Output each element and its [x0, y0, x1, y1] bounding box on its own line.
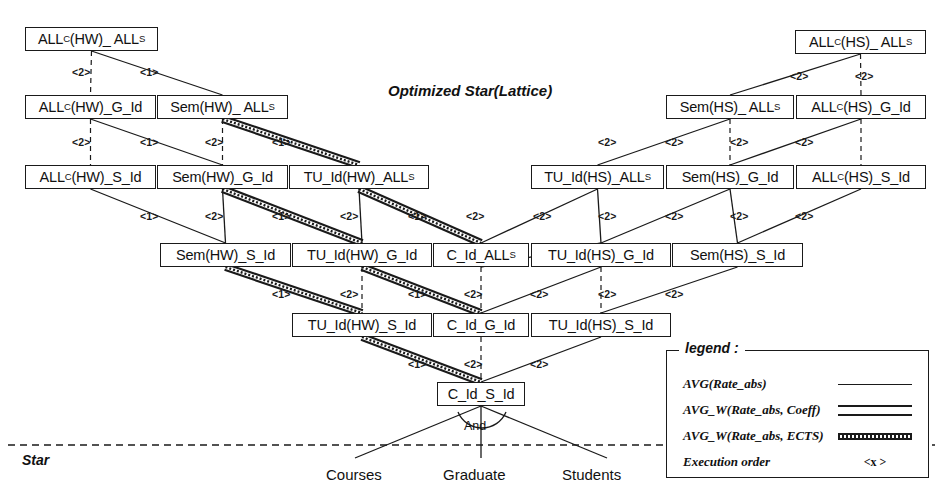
edge-order-label: <2> [205, 210, 224, 222]
star-dimension-label[interactable]: Courses [326, 466, 382, 483]
legend-row-sample [836, 433, 914, 440]
lattice-node[interactable]: TU_Id(HW)_ALLS [289, 165, 429, 189]
edge-order-label: <2> [598, 136, 617, 148]
edge-order-label: <1> [140, 210, 159, 222]
lattice-node[interactable]: TU_Id(HS)_G_Id [531, 243, 671, 267]
lattice-node[interactable]: C_Id_G_Id [433, 313, 529, 337]
legend-row: AVG_W(Rate_abs, Coeff) [667, 397, 928, 423]
lattice-node[interactable]: C_Id_ALLS [433, 243, 529, 267]
lattice-node[interactable]: Sem(HS)_G_Id [666, 165, 794, 189]
lattice-node[interactable]: Sem(HS)_ ALLS [666, 95, 794, 119]
edge-order-label: <1> [272, 288, 291, 300]
lattice-node[interactable]: Sem(HW)_S_Id [160, 243, 291, 267]
hatched-line-icon [838, 433, 912, 440]
edge-thin [359, 189, 362, 243]
legend-row-label: Execution order [683, 454, 836, 470]
legend-box: legend : AVG(Rate_abs)AVG_W(Rate_abs, Co… [666, 350, 929, 478]
legend-rows: AVG(Rate_abs)AVG_W(Rate_abs, Coeff)AVG_W… [667, 371, 928, 475]
legend-row-sample: <x > [836, 455, 914, 470]
lattice-node[interactable]: Sem(HW)_G_Id [157, 165, 288, 189]
edge-order-label: <2> [466, 210, 485, 222]
edge-order-label: <1> [272, 210, 291, 222]
legend-row-label: AVG_W(Rate_abs, ECTS) [683, 428, 836, 444]
lattice-node[interactable]: C_Id_S_Id [437, 382, 525, 406]
edge-order-label: <1> [140, 66, 159, 78]
lattice-node[interactable]: ALLC(HS)_S_Id [796, 165, 926, 189]
and-label: And [464, 419, 486, 433]
edge-order-label: <2> [464, 358, 483, 370]
diagram-canvas: ALLC(HW)_ ALLSALLC(HW)_G_IdSem(HW)_ ALLS… [0, 0, 943, 504]
legend-row: Execution order<x > [667, 449, 928, 475]
edge-order-label: <2> [533, 210, 552, 222]
edge-order-label: <2> [665, 136, 684, 148]
lattice-node[interactable]: ALLC(HS)_ ALLS [795, 30, 926, 54]
edge-order-label: <1> [408, 288, 427, 300]
edge-order-label: <1> [272, 136, 291, 148]
legend-row-sample [836, 384, 914, 385]
star-dimension-label[interactable]: Students [562, 466, 621, 483]
edge-order-label: <2> [530, 358, 549, 370]
legend-row: AVG_W(Rate_abs, ECTS) [667, 423, 928, 449]
star-label: Star [22, 452, 49, 468]
lattice-node[interactable]: Sem(HS)_S_Id [672, 243, 803, 267]
edge-order-label: <2> [598, 210, 617, 222]
legend-row-label: AVG(Rate_abs) [683, 376, 836, 392]
legend-row: AVG(Rate_abs) [667, 371, 928, 397]
edge-order-label: <2> [340, 288, 359, 300]
execution-order-icon: <x > [864, 455, 887, 470]
edge-thin [598, 119, 731, 165]
star-dimension-label[interactable]: Graduate [443, 466, 506, 483]
edge-order-label: <2> [72, 66, 91, 78]
legend-row-sample [836, 405, 914, 416]
lattice-node[interactable]: TU_Id(HS)_S_Id [531, 313, 671, 337]
edge-order-label: <2> [795, 136, 814, 148]
edge-order-label: <2> [340, 210, 359, 222]
edge-order-label: <2> [665, 210, 684, 222]
edge-order-label: <1> [408, 358, 427, 370]
edge-order-label: <2> [464, 288, 483, 300]
legend-row-label: AVG_W(Rate_abs, Coeff) [683, 402, 836, 418]
lattice-node[interactable]: TU_Id(HS)_ALLS [531, 165, 664, 189]
lattice-node[interactable]: ALLC(HS)_G_Id [796, 95, 926, 119]
lattice-node[interactable]: ALLC(HW)_G_Id [25, 95, 156, 119]
edge-order-label: <2> [205, 136, 224, 148]
edge-order-label: <2> [795, 210, 814, 222]
lattice-node[interactable]: ALLC(HW)_S_Id [25, 165, 156, 189]
lattice-node[interactable]: TU_Id(HW)_S_Id [292, 313, 432, 337]
edge-order-label: <2> [598, 288, 617, 300]
legend-title: legend : [679, 340, 745, 356]
double-line-icon [838, 405, 912, 416]
edge-order-label: <1> [140, 136, 159, 148]
edge-order-label: <2> [730, 136, 749, 148]
edge-order-label: <2> [730, 210, 749, 222]
thin-line-icon [838, 384, 912, 385]
edge-order-label: <2> [665, 288, 684, 300]
edge-order-label: <1> [408, 210, 427, 222]
edge-order-label: <2> [530, 288, 549, 300]
edge-ects [222, 116, 360, 168]
diagram-title: Optimized Star(Lattice) [388, 82, 552, 99]
edge-order-label: <2> [72, 136, 91, 148]
lattice-node[interactable]: ALLC(HW)_ ALLS [25, 27, 158, 51]
edge-order-label: <2> [790, 70, 809, 82]
lattice-node[interactable]: TU_Id(HW)_G_Id [292, 243, 432, 267]
edge-order-label: <2> [855, 70, 874, 82]
lattice-node[interactable]: Sem(HW)_ ALLS [157, 95, 288, 119]
